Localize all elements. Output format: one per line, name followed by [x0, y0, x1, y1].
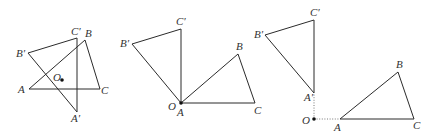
label-b-prime: B′ [120, 37, 130, 49]
center-point-o [179, 101, 183, 105]
label-a: A [333, 121, 341, 133]
label-a: A [17, 83, 25, 95]
figure-1: A B C A′ B′ C′ O [16, 25, 109, 124]
figure-3: O A B C A′ B′ C′ [254, 6, 421, 133]
figure-2: O A B C B′ C′ [120, 15, 262, 118]
triangle-abc [29, 40, 100, 89]
label-c-prime: C′ [71, 25, 81, 37]
label-b-prime: B′ [254, 28, 264, 40]
label-b: B [85, 27, 92, 39]
triangle-abc [340, 72, 414, 119]
label-c-prime: C′ [176, 15, 186, 27]
label-c: C [413, 119, 421, 131]
triangle-abc [181, 54, 255, 103]
label-o: O [53, 71, 61, 83]
label-b: B [236, 40, 243, 52]
label-b-prime: B′ [16, 47, 26, 59]
label-o: O [302, 114, 310, 126]
label-b: B [396, 58, 403, 70]
rotation-diagrams: A B C A′ B′ C′ O O A B C B′ C′ O A B C A… [0, 0, 431, 134]
label-c-prime: C′ [310, 6, 320, 18]
label-a-prime: A′ [70, 112, 81, 124]
label-c: C [101, 84, 109, 96]
triangle-a-prime-b-prime-c-prime [132, 29, 181, 103]
center-point-o [312, 117, 316, 121]
label-c: C [254, 104, 262, 116]
label-a-prime: A′ [303, 91, 314, 103]
label-a: A [176, 106, 184, 118]
label-o: O [168, 100, 176, 112]
triangle-a-prime-b-prime-c-prime [265, 20, 314, 93]
